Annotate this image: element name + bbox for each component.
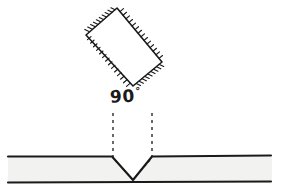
workpiece-plate-group [8, 156, 272, 183]
tool-group [85, 8, 164, 87]
angle-value: 90 [109, 86, 135, 107]
plate-bottom-surface [8, 182, 271, 183]
engineering-sketch-figure: 90° [0, 0, 281, 191]
plate-fill [8, 157, 272, 182]
angle-annotation-label: 90° [109, 85, 141, 107]
guide-lines-group [113, 113, 152, 158]
degree-symbol: ° [135, 86, 141, 97]
